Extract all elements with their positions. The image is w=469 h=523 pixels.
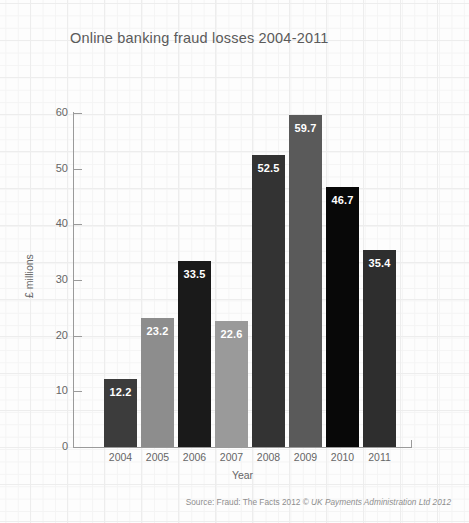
chart-title: Online banking fraud losses 2004-2011 (70, 30, 329, 46)
x-axis-tick-label: 2005 (141, 451, 174, 463)
source-note: Source: Fraud: The Facts 2012 © UK Payme… (186, 497, 451, 507)
bar[interactable]: 12.2 (104, 379, 137, 447)
y-axis-tick (74, 224, 82, 225)
x-axis-tick-label: 2008 (252, 451, 285, 463)
chart-page: Online banking fraud losses 2004-2011 01… (0, 0, 469, 523)
plot-area: 12.223.233.522.652.559.746.735.4 (104, 113, 400, 447)
y-axis-tick (74, 280, 82, 281)
x-axis-tick-label: 2006 (178, 451, 211, 463)
bar[interactable]: 46.7 (326, 187, 359, 447)
y-axis-tick-label: 10 (38, 384, 68, 396)
source-note-prefix: Source: Fraud: The Facts 2012 © (186, 497, 311, 507)
x-axis-line (73, 447, 412, 448)
x-axis-tick-label: 2004 (104, 451, 137, 463)
x-axis-end-tick (411, 440, 412, 448)
y-axis-tick-label: 60 (38, 106, 68, 118)
y-axis-tick-label: 50 (38, 162, 68, 174)
bar-value-label: 22.6 (215, 328, 248, 340)
bar[interactable]: 22.6 (215, 321, 248, 447)
x-axis-label: Year (73, 469, 412, 481)
x-axis-tick-label: 2009 (289, 451, 322, 463)
bar[interactable]: 52.5 (252, 155, 285, 447)
x-axis-tick-label: 2011 (363, 451, 396, 463)
y-axis-label: £ millions (23, 236, 35, 316)
y-axis-tick-label: 30 (38, 273, 68, 285)
source-note-publisher: UK Payments Administration Ltd 2012 (311, 497, 451, 507)
bar-value-label: 33.5 (178, 268, 211, 280)
bar-value-label: 35.4 (363, 257, 396, 269)
bar[interactable]: 59.7 (289, 115, 322, 447)
bar-value-label: 12.2 (104, 386, 137, 398)
bar-value-label: 52.5 (252, 162, 285, 174)
y-axis-tick-label: 0 (38, 440, 68, 452)
y-axis-tick (74, 336, 82, 337)
bar[interactable]: 35.4 (363, 250, 396, 447)
bar[interactable]: 33.5 (178, 261, 211, 447)
x-axis-tick-label: 2010 (326, 451, 359, 463)
y-axis-tick-label: 20 (38, 329, 68, 341)
bar[interactable]: 23.2 (141, 318, 174, 447)
bar-value-label: 59.7 (289, 122, 322, 134)
bar-value-label: 46.7 (326, 194, 359, 206)
y-axis-tick (74, 391, 82, 392)
x-axis-tick-label: 2007 (215, 451, 248, 463)
y-axis-tick-label: 40 (38, 217, 68, 229)
y-axis-tick (74, 113, 82, 114)
bar-value-label: 23.2 (141, 325, 174, 337)
y-axis-tick (74, 169, 82, 170)
y-axis-tick (74, 447, 82, 448)
